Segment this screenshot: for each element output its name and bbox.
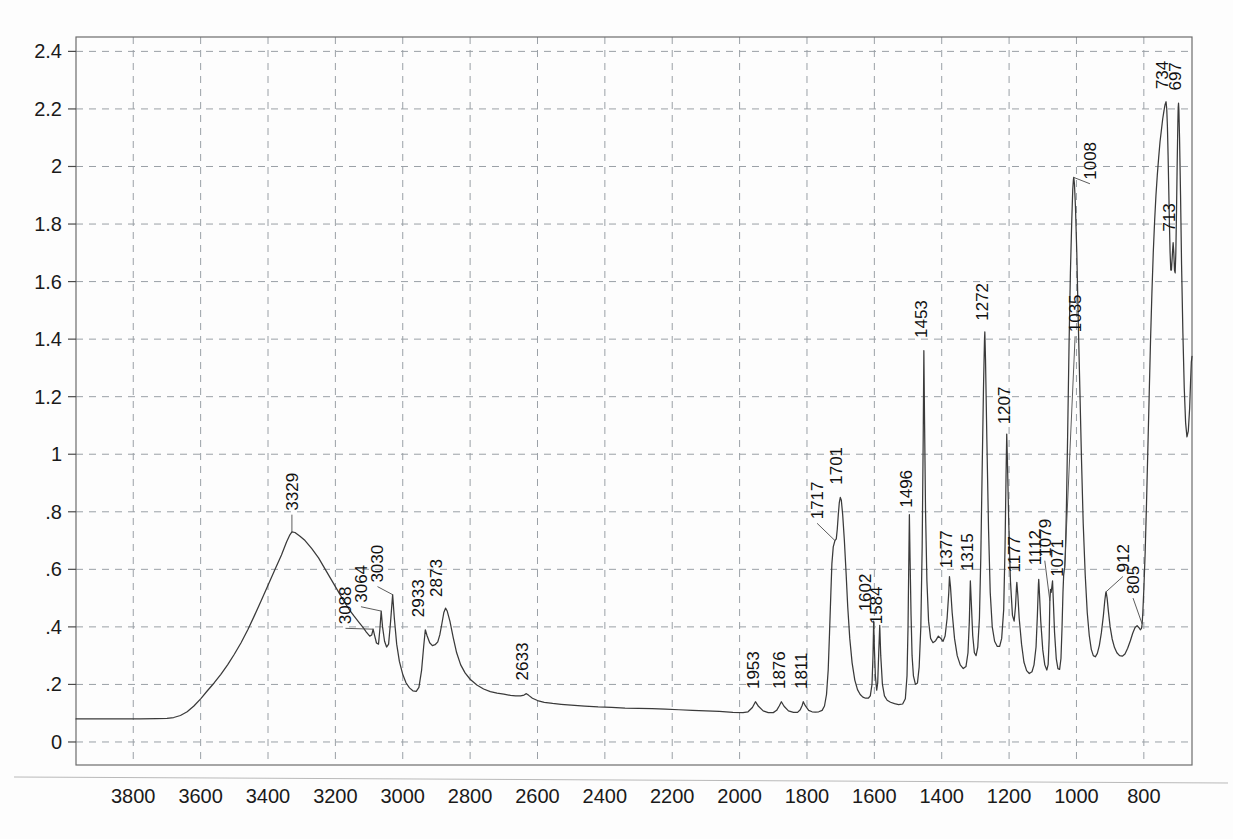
peak-label: 1496 (897, 470, 916, 508)
x-tick-label: 2600 (515, 785, 560, 807)
y-tick-label: .4 (45, 616, 62, 638)
x-tick-label: 1600 (852, 785, 897, 807)
x-tick-label: 1400 (919, 785, 964, 807)
axis-rule (14, 777, 1228, 783)
peak-label: 1008 (1081, 142, 1100, 180)
peak-label: 2873 (427, 559, 446, 597)
peak-label: 1272 (973, 283, 992, 321)
peak-leader-line (361, 607, 381, 611)
plot-border (76, 37, 1192, 765)
x-tick-label: 3800 (111, 785, 156, 807)
x-tick-label: 800 (1127, 785, 1160, 807)
x-tick-label: 2200 (650, 785, 695, 807)
y-tick-label: .8 (45, 501, 62, 523)
peak-label: 2633 (513, 643, 532, 681)
peak-leader-line (1065, 336, 1075, 568)
peak-label: 697 (1166, 62, 1185, 90)
peak-label: 1701 (827, 447, 846, 485)
y-tick-label: 1.6 (34, 271, 62, 293)
peak-leader-line (1106, 577, 1123, 592)
x-axis-baseline (14, 777, 1228, 783)
peak-label: 1207 (995, 387, 1014, 425)
x-tick-label: 2000 (717, 785, 762, 807)
grid-layer (76, 37, 1192, 765)
y-tick-label: 1.4 (34, 328, 62, 350)
x-tick-label: 3000 (380, 785, 425, 807)
y-tick-label: .6 (45, 558, 62, 580)
peak-label: 2933 (409, 579, 428, 617)
peak-label: 1876 (770, 651, 789, 689)
x-tick-label: 1800 (785, 785, 830, 807)
peak-label: 1377 (937, 530, 956, 568)
peak-label: 3030 (368, 545, 387, 583)
x-tick-label: 1200 (987, 785, 1032, 807)
peak-label: 3329 (283, 473, 302, 511)
peak-label: 1811 (792, 652, 811, 689)
ir-spectrum-figure: 0.2.4.6.811.21.41.61.822.22.4 3800360034… (0, 0, 1233, 839)
peak-label: 1584 (867, 586, 886, 624)
peak-label: 713 (1160, 203, 1179, 231)
peak-leader-line (817, 523, 835, 540)
peak-leader-line (345, 628, 373, 629)
y-tick-label: 1.2 (34, 386, 62, 408)
x-tick-label: 3400 (246, 785, 291, 807)
x-tick-label: 3600 (178, 785, 223, 807)
y-tick-label: 2.2 (34, 98, 62, 120)
spectrum-trace-layer (76, 102, 1192, 719)
plot-frame (76, 37, 1192, 765)
x-tick-label: 2400 (583, 785, 628, 807)
peak-label: 1035 (1066, 294, 1085, 332)
x-tick-label: 3200 (313, 785, 358, 807)
peak-label: 1717 (808, 481, 827, 519)
peak-label: 1315 (958, 533, 977, 571)
y-tick-label: 0 (51, 731, 62, 753)
peak-leader-line (377, 587, 392, 595)
spectrum-trace (76, 102, 1192, 719)
spectrum-canvas: 0.2.4.6.811.21.41.61.822.22.4 3800360034… (0, 0, 1233, 839)
x-axis-ticks: 3800360034003200300028002600240022002000… (111, 785, 1161, 807)
peak-label: 1453 (912, 300, 931, 338)
x-tick-label: 2800 (448, 785, 493, 807)
y-axis-ticks: 0.2.4.6.811.21.41.61.822.22.4 (34, 40, 76, 753)
peak-label: 1953 (744, 651, 763, 689)
peak-label: 1177 (1005, 536, 1024, 573)
y-tick-label: 2.4 (34, 40, 62, 62)
y-tick-label: 1 (51, 443, 62, 465)
y-tick-label: 2 (51, 155, 62, 177)
peak-label: 805 (1124, 566, 1143, 594)
x-tick-label: 1000 (1054, 785, 1099, 807)
y-tick-label: .2 (45, 673, 62, 695)
peak-label: 1071 (1048, 539, 1067, 577)
peak-leader-line (1133, 598, 1142, 624)
y-tick-label: 1.8 (34, 213, 62, 235)
